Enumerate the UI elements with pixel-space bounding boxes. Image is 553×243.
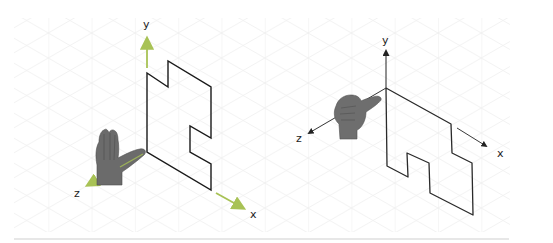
left-y-label: y	[143, 18, 150, 31]
isometric-diagram: y x z y z x	[0, 0, 553, 243]
right-y-label: y	[382, 34, 389, 47]
isometric-grid	[14, 18, 510, 232]
left-z-label: z	[74, 187, 80, 200]
right-x-label: x	[497, 147, 504, 160]
left-x-label: x	[250, 208, 257, 221]
right-z-label: z	[296, 132, 302, 145]
